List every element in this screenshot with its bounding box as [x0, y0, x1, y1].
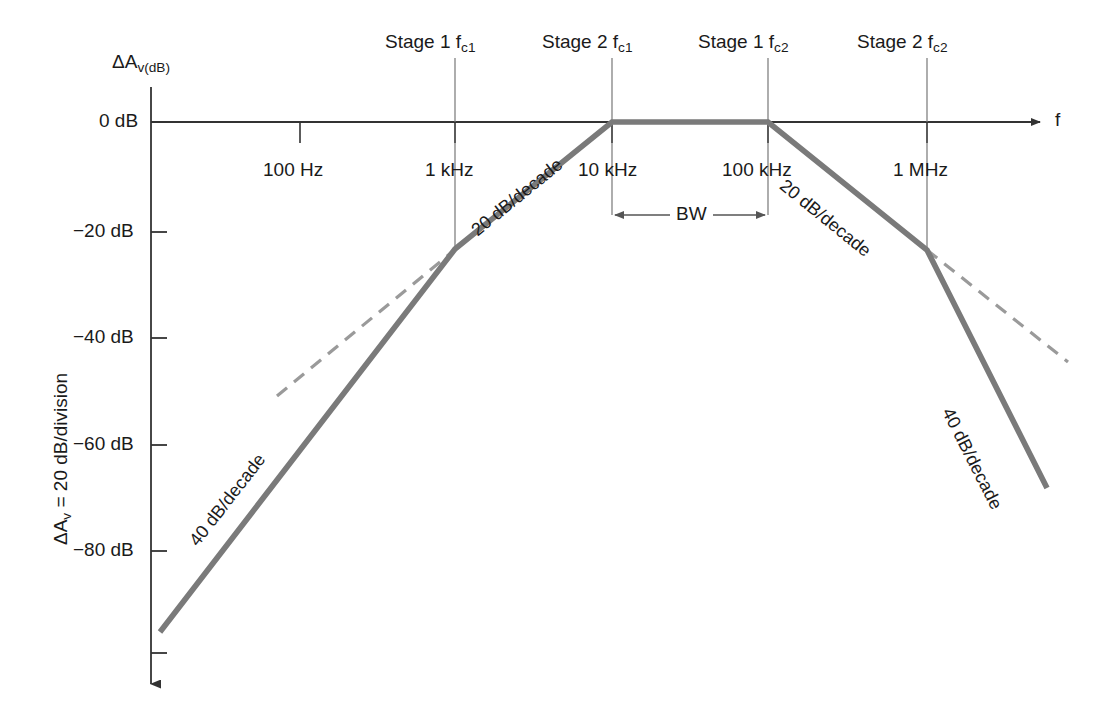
- plot-canvas: [0, 0, 1096, 723]
- y-axis-caption-sub: v: [59, 513, 74, 520]
- stage-marker-2-fc1-sub: c1: [618, 40, 632, 55]
- x-tick-label-100khz: 100 kHz: [722, 160, 792, 179]
- stage-marker-2-fc2-main: Stage 2 f: [857, 31, 933, 52]
- y-tick-label-minus20: −20 dB: [73, 221, 134, 240]
- stage-marker-1-fc2-main: Stage 1 f: [698, 31, 774, 52]
- stage-marker-2-fc1: Stage 2 fc1: [542, 32, 633, 55]
- y-tick-label-minus40: −40 dB: [73, 327, 134, 346]
- y-axis-title: ΔAv(dB): [112, 52, 170, 75]
- stage-marker-1-fc1-main: Stage 1 f: [385, 31, 461, 52]
- stage-marker-1-fc1-sub: c1: [461, 40, 475, 55]
- x-tick-label-10khz: 10 kHz: [578, 160, 637, 179]
- stage-marker-1-fc1: Stage 1 fc1: [385, 32, 476, 55]
- y-axis-caption-rest: = 20 dB/division: [50, 373, 71, 513]
- stage-marker-leaders: [455, 58, 927, 122]
- y-axis-caption: ΔAv = 20 dB/division: [50, 373, 74, 545]
- bandwidth-label: BW: [670, 204, 713, 223]
- stage-marker-2-fc2: Stage 2 fc2: [857, 32, 948, 55]
- y-axis-title-main: ΔA: [112, 51, 137, 72]
- x-axis-label: f: [1055, 110, 1060, 129]
- high-frequency-asymptote-dashed: [927, 250, 1068, 362]
- x-tick-label-1khz: 1 kHz: [425, 160, 474, 179]
- y-tick-label-0: 0 dB: [99, 111, 138, 130]
- x-axis-ticks: [300, 122, 927, 143]
- bode-plot-figure: ΔAv(dB) f ΔAv = 20 dB/division 0 dB −20 …: [0, 0, 1096, 723]
- y-axis-ticks: [151, 122, 167, 653]
- y-axis-title-sub: v(dB): [137, 60, 170, 75]
- y-tick-label-minus60: −60 dB: [73, 434, 134, 453]
- low-frequency-asymptote-dashed: [277, 248, 457, 396]
- x-tick-label-1mhz: 1 MHz: [893, 160, 948, 179]
- composite-response-curve: [160, 122, 1047, 632]
- stage-marker-1-fc2: Stage 1 fc2: [698, 32, 789, 55]
- stage-marker-1-fc2-sub: c2: [774, 40, 788, 55]
- x-tick-label-100hz: 100 Hz: [263, 160, 323, 179]
- y-axis-caption-main: ΔA: [50, 520, 71, 545]
- stage-marker-2-fc2-sub: c2: [933, 40, 947, 55]
- stage-marker-2-fc1-main: Stage 2 f: [542, 31, 618, 52]
- y-tick-label-minus80: −80 dB: [73, 540, 134, 559]
